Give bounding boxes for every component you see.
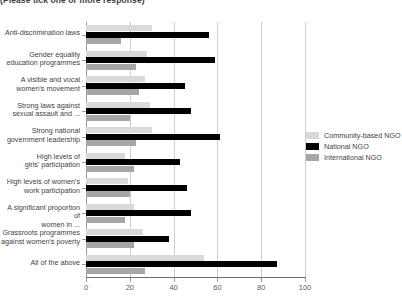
chart-legend: Community-based NGONational NGOInternati… — [306, 131, 400, 164]
bar-group: Anti-discrimination laws — [0, 22, 402, 48]
legend-label: International NGO — [324, 153, 382, 162]
x-tick-mark-100 — [305, 278, 306, 282]
legend-swatch — [306, 154, 319, 161]
x-axis-line — [86, 277, 306, 278]
x-tick-label-60: 60 — [213, 283, 221, 292]
bar-1 — [86, 159, 180, 165]
bar-1 — [86, 210, 191, 216]
bar-group: Gender equality education programmes — [0, 48, 402, 74]
legend-item[interactable]: National NGO — [306, 142, 400, 151]
category-label: Strong national government leadership — [0, 127, 80, 144]
bar-2 — [86, 140, 136, 146]
bar-1 — [86, 108, 191, 114]
bar-1 — [86, 134, 220, 140]
category-label: Gender equality education programmes — [0, 51, 80, 68]
bar-0 — [86, 178, 128, 184]
bar-group: A visible and vocal women's movement — [0, 73, 402, 99]
bar-0 — [86, 51, 147, 57]
category-label: Strong laws against sexual assault and .… — [0, 102, 80, 119]
bar-0 — [86, 25, 152, 31]
x-tick-mark-20 — [130, 278, 131, 282]
bar-0 — [86, 255, 204, 261]
bar-group: Strong laws against sexual assault and .… — [0, 99, 402, 125]
category-label: Grassroots programmes against women's po… — [0, 229, 80, 246]
legend-swatch — [306, 143, 319, 150]
bar-1 — [86, 236, 169, 242]
x-tick-label-80: 80 — [257, 283, 265, 292]
bar-group: A significant proportion of women in ... — [0, 201, 402, 227]
bar-2 — [86, 115, 130, 121]
bar-1 — [86, 83, 185, 89]
bar-2 — [86, 166, 134, 172]
bar-group: Grassroots programmes against women's po… — [0, 226, 402, 252]
bar-1 — [86, 32, 209, 38]
bar-2 — [86, 64, 136, 70]
bar-2 — [86, 191, 130, 197]
bar-2 — [86, 242, 134, 248]
bar-2 — [86, 38, 121, 44]
bar-0 — [86, 76, 145, 82]
x-tick-label-40: 40 — [169, 283, 177, 292]
bar-1 — [86, 185, 187, 191]
bar-2 — [86, 268, 145, 274]
x-tick-mark-40 — [174, 278, 175, 282]
bar-chart: (Please tick one or more response) 02040… — [0, 0, 402, 302]
category-label: High levels of girls' participation — [0, 153, 80, 170]
bar-group: All of the above — [0, 252, 402, 278]
bar-group: High levels of women's work participatio… — [0, 175, 402, 201]
legend-item[interactable]: International NGO — [306, 153, 400, 162]
bar-0 — [86, 102, 150, 108]
bar-2 — [86, 89, 139, 95]
legend-label: Community-based NGO — [324, 131, 401, 140]
bar-0 — [86, 127, 152, 133]
bar-0 — [86, 229, 143, 235]
bar-1 — [86, 57, 215, 63]
category-label: Anti-discrimination laws — [0, 29, 80, 38]
x-tick-label-0: 0 — [84, 283, 88, 292]
bar-2 — [86, 217, 125, 223]
legend-swatch — [306, 132, 319, 139]
x-tick-label-100: 100 — [299, 283, 312, 292]
chart-subtitle: (Please tick one or more response) — [0, 0, 145, 5]
x-tick-mark-80 — [261, 278, 262, 282]
category-label: A visible and vocal women's movement — [0, 76, 80, 93]
legend-item[interactable]: Community-based NGO — [306, 131, 400, 140]
category-label: High levels of women's work participatio… — [0, 178, 80, 195]
x-tick-mark-60 — [217, 278, 218, 282]
bar-0 — [86, 153, 125, 159]
legend-label: National NGO — [324, 142, 369, 151]
x-tick-label-20: 20 — [126, 283, 134, 292]
bar-1 — [86, 261, 277, 267]
category-label: All of the above — [0, 259, 80, 268]
bar-0 — [86, 204, 134, 210]
x-tick-mark-0 — [86, 278, 87, 282]
